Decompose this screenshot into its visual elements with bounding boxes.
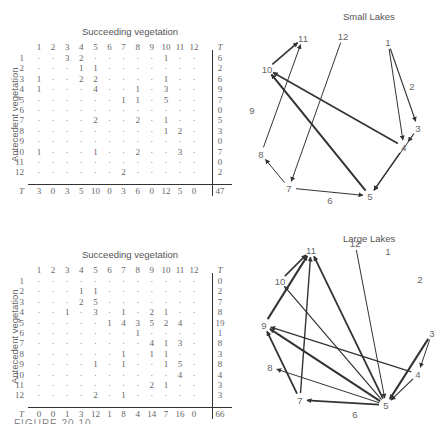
edge-5-to-11 [314, 256, 383, 398]
node-label: 1 [385, 246, 390, 257]
node-label: 12 [350, 238, 361, 249]
edge-9-to-11 [268, 256, 308, 319]
node-label: 10 [275, 276, 286, 287]
node-label: 11 [306, 245, 316, 256]
node-label: 8 [267, 362, 272, 373]
node-label: 7 [297, 395, 302, 406]
transition-diagram: 123456789101112 [0, 0, 443, 424]
figure-caption: FIGURE 20.10 [14, 417, 92, 424]
edge-7-to-11 [301, 257, 311, 393]
node-label: 9 [261, 320, 266, 331]
edge-3-to-5 [390, 339, 428, 399]
edge-5-to-8 [277, 369, 380, 403]
node-label: 3 [429, 328, 434, 339]
node-label: 2 [417, 274, 422, 285]
edge-4-to-5 [391, 379, 413, 400]
edge-4-to-9 [271, 327, 412, 372]
node-label: 5 [383, 400, 388, 411]
edge-5-to-7 [307, 400, 379, 404]
node-label: 6 [352, 409, 357, 420]
node-label: 4 [415, 369, 420, 380]
edge-5-to-9 [270, 329, 380, 401]
